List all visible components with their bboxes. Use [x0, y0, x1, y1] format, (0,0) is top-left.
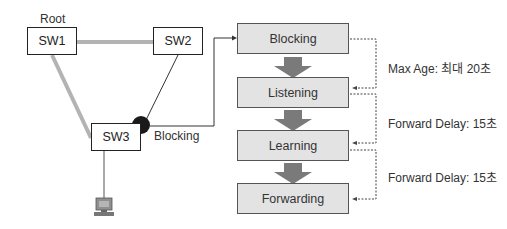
desktop-computer-icon: [94, 198, 114, 216]
switch-sw3: SW3: [91, 123, 141, 151]
switch-sw2: SW2: [153, 27, 203, 55]
blocking-port-label: Blocking: [154, 129, 199, 143]
state-forwarding: Forwarding: [237, 183, 349, 214]
root-label: Root: [40, 12, 65, 26]
link-sw1-sw3: [52, 55, 91, 138]
timer-max-age: Max Age: 최대 20초: [388, 59, 491, 76]
state-blocking: Blocking: [237, 23, 349, 54]
state-learning: Learning: [237, 130, 349, 161]
timer-brackets: [350, 39, 376, 199]
link-sw2-sw3: [146, 55, 178, 120]
switch-sw1: SW1: [27, 27, 77, 55]
timer-forward-delay-1: Forward Delay: 15초: [388, 114, 497, 131]
timer-forward-delay-2: Forward Delay: 15초: [388, 168, 497, 185]
state-listening: Listening: [237, 77, 349, 108]
